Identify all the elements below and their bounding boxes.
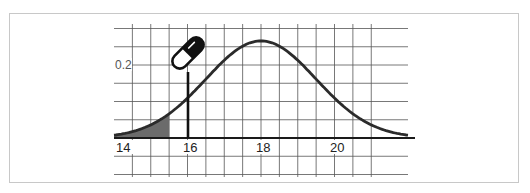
x-tick-16: 16 xyxy=(183,140,197,155)
pill-icon xyxy=(169,34,206,71)
normal-distribution-chart: 14 16 18 20 0.2 xyxy=(0,0,530,193)
x-tick-20: 20 xyxy=(330,140,344,155)
x-tick-18: 18 xyxy=(256,140,270,155)
y-tick-0-2: 0.2 xyxy=(115,58,132,72)
x-tick-14: 14 xyxy=(116,140,130,155)
